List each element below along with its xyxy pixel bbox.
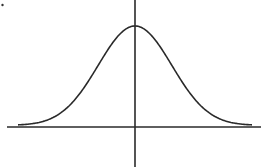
bell-curve-diagram [0,0,261,167]
stray-dot [1,4,3,6]
